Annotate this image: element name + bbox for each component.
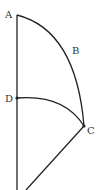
arc-DC — [17, 98, 84, 126]
point-C — [82, 124, 85, 127]
line-C-down — [26, 126, 84, 190]
arc-ABC — [17, 15, 84, 126]
label-D: D — [5, 93, 13, 104]
label-A: A — [4, 9, 13, 20]
point-D — [15, 96, 18, 99]
label-C: C — [87, 125, 95, 136]
geometry-diagram: A B C D — [0, 0, 100, 190]
label-B: B — [72, 45, 79, 56]
